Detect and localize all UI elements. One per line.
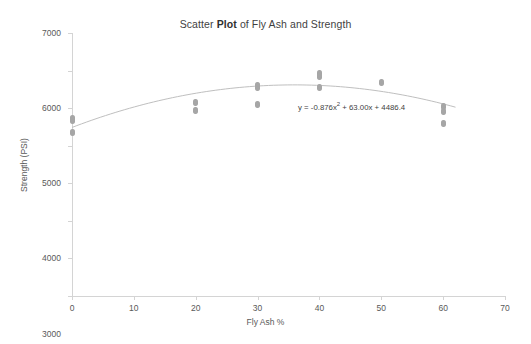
scatter-chart-screenshot: Scatter Plot of Fly Ash and Strength Str… <box>0 0 531 344</box>
y-tick-label: 5000 <box>42 178 61 188</box>
data-point-marker <box>70 129 75 136</box>
y-tick-mark: 5000 <box>68 108 72 109</box>
x-axis-title: Fly Ash % <box>0 317 531 327</box>
chart-title-part-1: Scatter <box>180 18 217 30</box>
data-point-marker <box>317 73 322 80</box>
y-tick-mark: 3000 <box>68 183 72 184</box>
y-tick-label: 6000 <box>42 103 61 113</box>
y-tick-label: 4000 <box>42 253 61 263</box>
data-point-marker <box>379 79 384 86</box>
x-tick-label: 0 <box>70 303 75 313</box>
x-tick-label: 50 <box>377 303 386 313</box>
x-tick-label: 10 <box>129 303 138 313</box>
y-axis-title: Strength (PSI) <box>19 138 29 192</box>
y-tick-mark: 4000 <box>68 146 72 147</box>
data-point-marker <box>441 120 446 127</box>
y-tick-mark: 6000 <box>68 71 72 72</box>
data-point-marker <box>255 101 260 108</box>
x-tick-label: 70 <box>500 303 509 313</box>
chart-title-part-bold: Plot <box>217 18 237 30</box>
data-point-marker <box>317 84 322 91</box>
x-tick-label: 40 <box>315 303 324 313</box>
y-tick-label: 7000 <box>42 28 61 38</box>
data-point-marker <box>193 107 198 114</box>
x-tick-label: 60 <box>438 303 447 313</box>
x-tick-mark: 20 <box>196 296 197 300</box>
x-tick-mark: 50 <box>381 296 382 300</box>
data-point-marker <box>255 84 260 91</box>
plot-area: 01000200030004000500060007000 0102030405… <box>72 33 505 296</box>
y-tick-mark: 1000 <box>68 258 72 259</box>
chart-title-part-2: of Fly Ash and Strength <box>237 18 351 30</box>
x-tick-mark: 0 <box>72 296 73 300</box>
x-tick-mark: 70 <box>505 296 506 300</box>
y-tick-mark: 7000 <box>68 33 72 34</box>
x-tick-label: 30 <box>253 303 262 313</box>
x-tick-label: 20 <box>191 303 200 313</box>
x-tick-mark: 40 <box>319 296 320 300</box>
data-point-marker <box>70 117 75 124</box>
trendline <box>72 33 505 296</box>
data-point-marker <box>441 108 446 115</box>
y-tick-label: 3000 <box>42 329 61 339</box>
chart-title: Scatter Plot of Fly Ash and Strength <box>0 18 531 30</box>
x-axis-line <box>72 296 506 297</box>
trendline-equation-label: y = -0.876x2 + 63.00x + 4486.4 <box>298 101 405 112</box>
x-tick-mark: 60 <box>443 296 444 300</box>
x-tick-mark: 10 <box>134 296 135 300</box>
x-tick-mark: 30 <box>258 296 259 300</box>
data-point-marker <box>193 99 198 106</box>
y-tick-mark: 2000 <box>68 221 72 222</box>
